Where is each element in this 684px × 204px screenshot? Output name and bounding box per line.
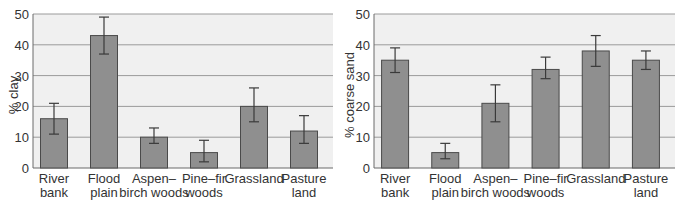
bar-group bbox=[91, 17, 118, 168]
coarse-sand-chart-svg: 01020304050% coarse sandRiverbankFloodpl… bbox=[342, 0, 684, 204]
x-category-label: Pasture bbox=[624, 171, 669, 186]
x-category-label: land bbox=[634, 185, 659, 200]
y-tick-label: 0 bbox=[22, 161, 29, 176]
x-category-label: birch woods bbox=[119, 185, 189, 200]
x-category-label: plain bbox=[90, 185, 117, 200]
bar bbox=[582, 51, 609, 168]
x-category-label: Pine–fir bbox=[524, 171, 569, 186]
y-tick-label: 50 bbox=[356, 7, 370, 22]
coarse-sand-chart: 01020304050% coarse sandRiverbankFloodpl… bbox=[342, 0, 684, 204]
x-category-label: River bbox=[39, 171, 70, 186]
x-category-label: bank bbox=[381, 185, 410, 200]
y-axis-title: % clay bbox=[6, 75, 21, 114]
clay-chart: 01020304050% clayRiverbankFloodplainAspe… bbox=[0, 0, 342, 204]
x-category-label: plain bbox=[432, 185, 459, 200]
x-category-label: woods bbox=[526, 185, 565, 200]
bar-group bbox=[582, 36, 609, 168]
x-category-label: land bbox=[292, 185, 317, 200]
x-category-label: Grassland bbox=[566, 171, 625, 186]
x-category-label: Pasture bbox=[282, 171, 327, 186]
bar bbox=[532, 69, 559, 168]
x-category-label: Aspen– bbox=[473, 171, 518, 186]
y-tick-label: 50 bbox=[15, 7, 29, 22]
x-category-label: bank bbox=[40, 185, 69, 200]
bar bbox=[632, 60, 659, 168]
y-tick-label: 40 bbox=[356, 38, 370, 53]
bar bbox=[382, 60, 409, 168]
x-category-label: Pine–fir bbox=[182, 171, 227, 186]
y-tick-label: 0 bbox=[363, 161, 370, 176]
x-category-label: Grassland bbox=[224, 171, 283, 186]
x-category-label: woods bbox=[184, 185, 223, 200]
x-category-label: birch woods bbox=[461, 185, 531, 200]
plot-area bbox=[33, 14, 333, 168]
y-tick-label: 10 bbox=[15, 130, 29, 145]
clay-chart-svg: 01020304050% clayRiverbankFloodplainAspe… bbox=[0, 0, 342, 204]
bar-group bbox=[632, 51, 659, 168]
bar bbox=[91, 36, 118, 168]
y-tick-label: 40 bbox=[15, 38, 29, 53]
x-category-label: River bbox=[380, 171, 411, 186]
y-tick-label: 10 bbox=[356, 130, 370, 145]
y-tick-label: 20 bbox=[356, 99, 370, 114]
x-category-label: Aspen– bbox=[132, 171, 177, 186]
bar-group bbox=[382, 48, 409, 168]
plot-area bbox=[374, 14, 675, 168]
y-tick-label: 30 bbox=[356, 69, 370, 84]
y-axis-title: % coarse sand bbox=[342, 52, 357, 138]
x-category-label: Flood bbox=[429, 171, 462, 186]
x-category-label: Flood bbox=[88, 171, 121, 186]
bar-group bbox=[532, 57, 559, 168]
